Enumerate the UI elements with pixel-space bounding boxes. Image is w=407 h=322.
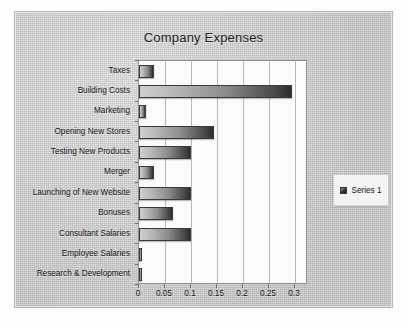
bar-row xyxy=(139,81,306,101)
category-label-opening-new-stores: Opening New Stores xyxy=(15,121,135,141)
legend-item-label-series-1: Series 1 xyxy=(351,186,381,195)
bar-launching-of-new-website[interactable] xyxy=(139,187,191,200)
bar-opening-new-stores[interactable] xyxy=(139,126,214,139)
x-tick-0.2 xyxy=(242,284,243,288)
category-label-building-costs: Building Costs xyxy=(15,80,135,100)
x-tick-0 xyxy=(138,284,139,288)
category-label-testing-new-products: Testing New Products xyxy=(15,141,135,161)
category-label-taxes: Taxes xyxy=(15,60,135,80)
x-tick-label-0.15: 0.15 xyxy=(208,289,224,298)
x-tick-label-0.2: 0.2 xyxy=(236,289,247,298)
bar-taxes[interactable] xyxy=(139,65,154,78)
x-tick-0.05 xyxy=(164,284,165,288)
bar-bonuses[interactable] xyxy=(139,207,173,220)
bar-testing-new-products[interactable] xyxy=(139,146,191,159)
bar-research-development[interactable] xyxy=(139,268,142,281)
plot-area xyxy=(138,60,307,284)
scanned-page: Company Expenses Taxes Building Costs Ma… xyxy=(0,0,407,322)
category-label-consultant-salaries: Consultant Salaries xyxy=(15,223,135,243)
bar-row xyxy=(139,61,306,81)
bar-row xyxy=(139,204,306,224)
x-tick-label-0.1: 0.1 xyxy=(184,289,195,298)
bar-marketing[interactable] xyxy=(139,105,146,118)
category-axis-labels: Taxes Building Costs Marketing Opening N… xyxy=(15,60,135,284)
bar-row xyxy=(139,224,306,244)
x-tick-label-0.05: 0.05 xyxy=(156,289,172,298)
bar-row xyxy=(139,122,306,142)
bar-merger[interactable] xyxy=(139,166,154,179)
bar-row xyxy=(139,244,306,264)
category-label-bonuses: Bonuses xyxy=(15,203,135,223)
x-tick-label-0.25: 0.25 xyxy=(260,289,276,298)
x-tick-0.3 xyxy=(294,284,295,288)
x-tick-0.1 xyxy=(190,284,191,288)
bar-row xyxy=(139,102,306,122)
chart-legend: Series 1 xyxy=(333,174,389,206)
bar-building-costs[interactable] xyxy=(139,85,292,98)
category-label-employee-salaries: Employee Salaries xyxy=(15,243,135,263)
chart-title: Company Expenses xyxy=(15,30,392,45)
category-label-launching-of-new-website: Launching of New Website xyxy=(15,182,135,202)
category-label-merger: Merger xyxy=(15,162,135,182)
bar-row xyxy=(139,183,306,203)
category-label-research-and-development: Research & Development xyxy=(15,264,135,284)
x-tick-0.25 xyxy=(268,284,269,288)
chart-card: Company Expenses Taxes Building Costs Ma… xyxy=(14,11,393,308)
bar-row xyxy=(139,265,306,285)
category-label-marketing: Marketing xyxy=(15,101,135,121)
x-tick-label-0.3: 0.3 xyxy=(288,289,299,298)
x-tick-0.15 xyxy=(216,284,217,288)
series-1-swatch xyxy=(340,187,347,194)
x-tick-label-0: 0 xyxy=(136,289,141,298)
bar-row xyxy=(139,142,306,162)
bar-consultant-salaries[interactable] xyxy=(139,228,191,241)
bar-row xyxy=(139,163,306,183)
x-axis-tick-labels: 00.050.10.150.20.250.3 xyxy=(15,289,394,303)
bar-employee-salaries[interactable] xyxy=(139,248,142,261)
bar-rows xyxy=(139,61,306,283)
